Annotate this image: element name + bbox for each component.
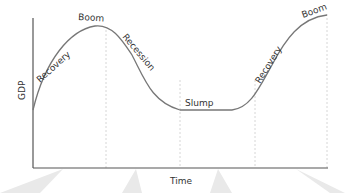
axes (33, 18, 328, 168)
phase-label-recession: Recession (120, 32, 157, 73)
phase-label-recovery-1: Recovery (35, 49, 73, 85)
phase-label-slump: Slump (185, 98, 214, 108)
gdp-curve (33, 15, 327, 110)
business-cycle-diagram: GDP Time Recovery Boom Recession Slump R… (0, 0, 345, 193)
phase-label-boom-1: Boom (78, 12, 104, 23)
phase-dividers (106, 14, 327, 168)
phase-label-boom-2: Boom (300, 2, 328, 20)
x-axis-label: Time (169, 176, 192, 186)
y-axis-label: GDP (17, 80, 27, 100)
phase-label-recovery-2: Recovery (253, 44, 284, 85)
